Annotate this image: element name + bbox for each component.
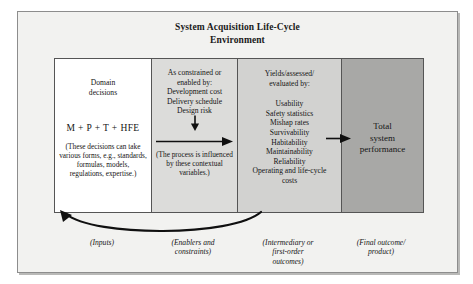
- domain-header-line-1: Domain: [91, 78, 115, 87]
- constraints-header-line-3: Development cost: [167, 87, 222, 96]
- domain-note: (These decisions can take various forms,…: [59, 142, 147, 178]
- caption-enablers-line-1: (Enablers and: [171, 238, 214, 247]
- metric-item: Habitability: [271, 138, 307, 147]
- caption-intermediary: (Intermediary or first-order outcomes): [236, 224, 340, 266]
- caption-intermediary-line-1: (Intermediary or: [263, 238, 314, 247]
- box-domain-decisions: Domain decisions M + P + T + HFE (These …: [55, 59, 151, 212]
- total-label-line-2: system: [370, 133, 395, 143]
- domain-header-line-2: decisions: [89, 88, 117, 97]
- constraints-header: As constrained or enabled by: Developmen…: [156, 68, 233, 116]
- caption-enablers-line-2: constraints): [175, 247, 211, 256]
- yields-header: Yields/assessed/ evaluated by:: [242, 69, 337, 88]
- metric-item: Usability: [276, 99, 304, 108]
- total-label-line-3: performance: [360, 144, 405, 154]
- metric-item: Reliability: [273, 157, 305, 166]
- constraints-header-line-2: enabled by:: [177, 78, 212, 87]
- metric-item: Survivability: [270, 128, 310, 137]
- metric-item: Maintainability: [266, 147, 313, 156]
- figure-title: System Acquisition Life-Cycle Environmen…: [18, 21, 457, 46]
- caption-inputs: (Inputs): [54, 224, 150, 266]
- constraints-note: (The process is influenced by these cont…: [156, 150, 233, 177]
- figure-title-line-1: System Acquisition Life-Cycle: [18, 21, 457, 34]
- total-label-line-1: Total: [373, 121, 391, 131]
- caption-final-outcome: (Final outcome/ product): [340, 224, 422, 266]
- yields-metrics-list: Usability Safety statistics Mishap rates…: [242, 99, 337, 185]
- caption-final-line-2: product): [368, 247, 394, 256]
- caption-enablers: (Enablers and constraints): [150, 224, 236, 266]
- constraints-header-line-1: As constrained or: [168, 68, 222, 77]
- caption-intermediary-line-3: outcomes): [272, 257, 303, 266]
- metric-item: Safety statistics: [266, 109, 313, 118]
- right-arrow-icon: [156, 133, 234, 151]
- transfer-right-arrow-icon: [326, 130, 352, 148]
- metric-item: costs: [282, 176, 297, 185]
- metric-item: Operating and life-cycle: [253, 166, 327, 175]
- figure-title-line-2: Environment: [18, 34, 457, 47]
- box-constraints-enablers: As constrained or enabled by: Developmen…: [151, 59, 237, 212]
- constraints-header-line-4: Delivery schedule: [167, 97, 222, 106]
- yields-header-line-2: evaluated by:: [269, 79, 310, 88]
- caption-row: (Inputs) (Enablers and constraints) (Int…: [54, 224, 424, 266]
- diagram-box-row: Domain decisions M + P + T + HFE (These …: [54, 58, 424, 213]
- box-total-system-performance: Total system performance: [341, 59, 423, 212]
- domain-decisions-header: Domain decisions: [59, 78, 147, 97]
- total-performance-label: Total system performance: [342, 121, 423, 156]
- metric-item: Mishap rates: [270, 118, 309, 127]
- caption-final-line-1: (Final outcome/: [357, 238, 406, 247]
- caption-intermediary-line-2: first-order: [272, 247, 303, 256]
- figure-frame: System Acquisition Life-Cycle Environmen…: [17, 11, 458, 273]
- yields-header-line-1: Yields/assessed/: [265, 69, 314, 78]
- domain-formula: M + P + T + HFE: [59, 122, 147, 134]
